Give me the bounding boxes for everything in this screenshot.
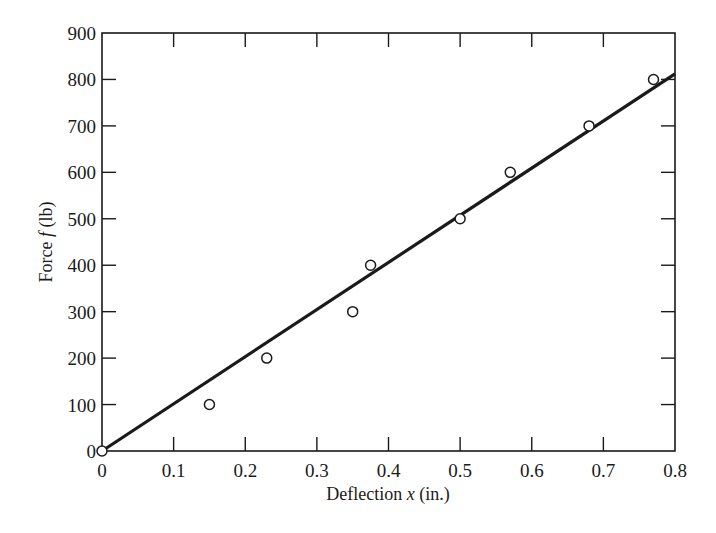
x-axis-label: Deflection x (in.): [326, 484, 449, 505]
y-tick-label: 400: [68, 255, 97, 276]
y-axis-label: Force f (lb): [36, 202, 57, 283]
y-tick-label: 100: [68, 395, 97, 416]
x-tick-label: 0.4: [377, 460, 401, 481]
x-tick-label: 0.2: [233, 460, 257, 481]
force-deflection-chart: 00.10.20.30.40.50.60.70.8 01002003004005…: [0, 0, 716, 533]
y-tick-label: 0: [87, 441, 97, 462]
y-tick-label: 900: [68, 23, 97, 44]
y-tick-label: 500: [68, 209, 97, 230]
y-tick-label: 200: [68, 348, 97, 369]
data-point-marker: [97, 446, 107, 456]
x-tick-label: 0: [97, 460, 107, 481]
x-tick-label: 0.5: [448, 460, 472, 481]
data-point-marker: [366, 260, 376, 270]
x-tick-label: 0.3: [305, 460, 329, 481]
x-tick-label: 0.8: [663, 460, 687, 481]
data-point-marker: [584, 121, 594, 131]
y-tick-label: 800: [68, 69, 97, 90]
data-point-marker: [455, 214, 465, 224]
x-tick-label: 0.7: [592, 460, 616, 481]
y-tick-label: 600: [68, 162, 97, 183]
data-point-marker: [348, 307, 358, 317]
y-tick-label: 700: [68, 116, 97, 137]
plot-border: [102, 33, 675, 451]
data-point-marker: [649, 74, 659, 84]
data-point-marker: [505, 167, 515, 177]
data-point-marker: [204, 400, 214, 410]
x-tick-label: 0.1: [162, 460, 186, 481]
data-point-marker: [262, 353, 272, 363]
x-axis-ticks: 00.10.20.30.40.50.60.70.8: [97, 33, 687, 481]
y-tick-label: 300: [68, 302, 97, 323]
y-axis-ticks: 0100200300400500600700800900: [68, 23, 676, 462]
plot-frame: [102, 33, 675, 451]
x-tick-label: 0.6: [520, 460, 544, 481]
